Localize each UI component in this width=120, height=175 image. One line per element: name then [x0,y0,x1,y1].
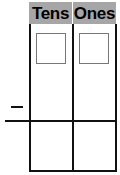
ones-digit-box[interactable] [79,33,109,64]
subtraction-line [5,120,117,122]
column-header-ones: Ones [73,2,116,24]
minus-sign-icon [11,106,23,108]
left-border-line [29,24,31,172]
tens-digit-box[interactable] [36,33,66,64]
bottom-border-line [29,170,117,172]
column-divider-line [72,24,74,172]
right-border-line [115,24,117,172]
column-header-tens: Tens [29,2,72,24]
